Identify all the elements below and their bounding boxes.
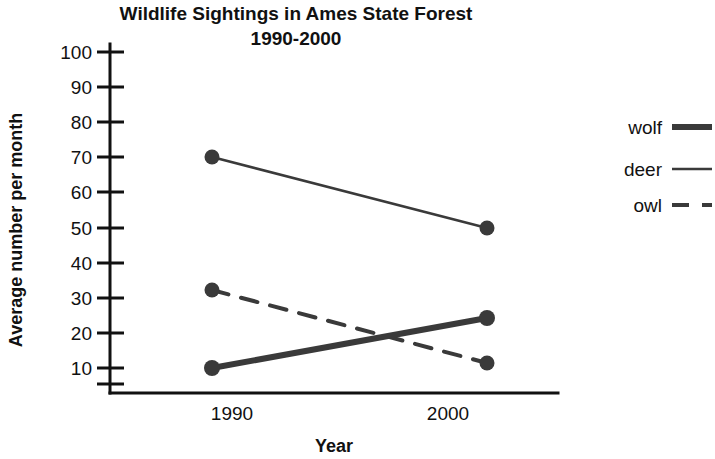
- y-tick-label-100: 100: [60, 42, 92, 63]
- x-tick-label-1990: 1990: [211, 403, 253, 424]
- legend-label-deer: deer: [624, 159, 663, 180]
- series-wolf: [204, 310, 495, 376]
- legend-entry-deer[interactable]: deer: [624, 159, 712, 180]
- y-tick-label-40: 40: [71, 253, 92, 274]
- y-tick-label-70: 70: [71, 147, 92, 168]
- chart-container: Wildlife Sightings in Ames State Forest …: [0, 0, 715, 459]
- y-tick-label-20: 20: [71, 323, 92, 344]
- chart-legend: wolf deer owl: [624, 117, 712, 216]
- series-wolf-line: [212, 318, 487, 368]
- y-tick-label-90: 90: [71, 77, 92, 98]
- legend-entry-wolf[interactable]: wolf: [627, 117, 712, 138]
- line-chart: Wildlife Sightings in Ames State Forest …: [0, 0, 715, 459]
- legend-entry-owl[interactable]: owl: [633, 195, 712, 216]
- series-wolf-point-1990: [204, 360, 220, 376]
- chart-title-line1: Wildlife Sightings in Ames State Forest: [120, 3, 473, 24]
- series-deer-line: [212, 157, 487, 228]
- series-wolf-point-2000: [479, 310, 495, 326]
- chart-title-line2: 1990-2000: [251, 28, 342, 49]
- x-axis-label: Year: [315, 436, 353, 456]
- series-owl-point-1990: [205, 283, 220, 298]
- x-tick-label-2000: 2000: [427, 403, 469, 424]
- y-tick-label-80: 80: [71, 112, 92, 133]
- y-axis-label: Average number per month: [6, 113, 26, 347]
- series-deer: [205, 150, 495, 236]
- legend-label-wolf: wolf: [627, 117, 663, 138]
- legend-label-owl: owl: [633, 195, 662, 216]
- y-axis-tick-labels: 100 90 80 70 60 50 40 30 20 10: [60, 42, 92, 379]
- y-tick-label-50: 50: [71, 218, 92, 239]
- series-deer-point-2000: [480, 221, 495, 236]
- y-tick-label-10: 10: [71, 358, 92, 379]
- y-tick-label-30: 30: [71, 288, 92, 309]
- y-tick-label-60: 60: [71, 182, 92, 203]
- series-deer-point-1990: [205, 150, 220, 165]
- series-owl-point-2000: [480, 356, 495, 371]
